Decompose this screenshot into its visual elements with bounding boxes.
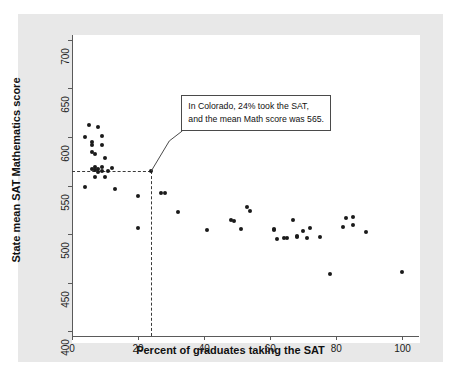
x-tick-label: 60 [250,343,290,354]
x-tick-label: 0 [52,343,92,354]
y-tick-label: 650 [60,88,71,122]
annotation-callout: In Colorado, 24% took the SAT, and the m… [181,95,331,131]
x-tick [204,336,205,340]
y-tick-label: 450 [60,282,71,316]
x-tick [72,336,73,340]
plot-area: 400450500550600650700 020406080100 In Co… [72,35,420,343]
y-axis-title: State mean SAT Mathematics score [10,77,22,262]
x-tick [138,336,139,340]
annotation-line-2: and the mean Math score was 565. [188,113,324,126]
x-tick [336,336,337,340]
y-tick-label: 700 [60,39,71,73]
y-tick-label: 550 [60,185,71,219]
x-axis-line [72,336,419,337]
x-tick [270,336,271,340]
x-tick-label: 20 [118,343,158,354]
x-tick-label: 40 [184,343,224,354]
callout-leader-line [72,35,419,336]
figure-panel: State mean SAT Mathematics score Percent… [18,14,443,362]
annotation-line-1: In Colorado, 24% took the SAT, [188,100,324,113]
y-tick-label: 600 [60,136,71,170]
x-tick [402,336,403,340]
x-tick-label: 100 [382,343,422,354]
x-tick-label: 80 [316,343,356,354]
y-tick-label: 500 [60,234,71,268]
